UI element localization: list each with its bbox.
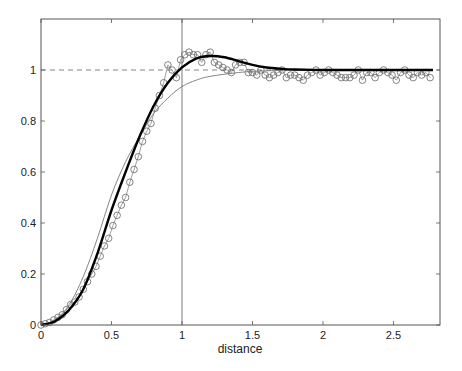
chart: 00.511.522.500.20.40.60.81 distance [0,0,462,371]
y-tick-label: 0 [30,319,36,331]
x-axis-label: distance [218,342,263,356]
x-tick-label: 1.5 [245,329,260,341]
y-tick-label: 1 [30,64,36,76]
x-tick-label: 2 [320,329,326,341]
y-tick-label: 0.6 [21,166,36,178]
x-tick-label: 2.5 [386,329,401,341]
x-tick-label: 0.5 [104,329,119,341]
y-tick-label: 0.2 [21,268,36,280]
y-tick-label: 0.8 [21,115,36,127]
x-tick-label: 0 [38,329,44,341]
plot-area [41,19,440,325]
y-tick-label: 0.4 [21,217,36,229]
x-tick-label: 1 [179,329,185,341]
